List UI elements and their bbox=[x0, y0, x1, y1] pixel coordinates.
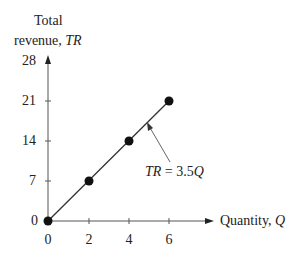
y-axis-title-var: TR bbox=[65, 33, 81, 48]
annotation-leader bbox=[149, 126, 170, 162]
x-axis-title-var: Q bbox=[275, 213, 285, 228]
x-axis-title-text: Quantity, bbox=[220, 213, 275, 228]
y-tick-label: 28 bbox=[12, 53, 36, 69]
y-tick-label: 0 bbox=[14, 213, 38, 229]
x-tick-label: 0 bbox=[38, 232, 58, 248]
annotation-lhs: TR bbox=[145, 164, 161, 179]
x-tick-label: 4 bbox=[119, 232, 139, 248]
annotation-arrow-icon bbox=[147, 122, 153, 131]
y-tick-label: 7 bbox=[12, 173, 36, 189]
annotation-eq: = 3.5 bbox=[161, 164, 193, 179]
data-point bbox=[125, 137, 134, 146]
x-tick-label: 2 bbox=[79, 232, 99, 248]
y-axis-title-text: revenue, bbox=[14, 33, 65, 48]
x-tick-label: 6 bbox=[159, 232, 179, 248]
tr-line bbox=[48, 101, 169, 221]
y-axis-title-line1: Total bbox=[34, 13, 63, 29]
annotation-rhs: Q bbox=[194, 164, 204, 179]
y-tick-label: 14 bbox=[12, 133, 36, 149]
x-axis-arrow-icon bbox=[205, 218, 214, 224]
data-point bbox=[85, 177, 94, 186]
x-axis-title: Quantity, Q bbox=[220, 213, 285, 229]
y-axis-title-line2: revenue, TR bbox=[14, 33, 82, 49]
data-point bbox=[165, 97, 174, 106]
y-tick-label: 21 bbox=[12, 93, 36, 109]
series-annotation: TR = 3.5Q bbox=[145, 164, 204, 180]
y-axis-arrow-icon bbox=[45, 55, 51, 64]
data-point bbox=[44, 217, 53, 226]
